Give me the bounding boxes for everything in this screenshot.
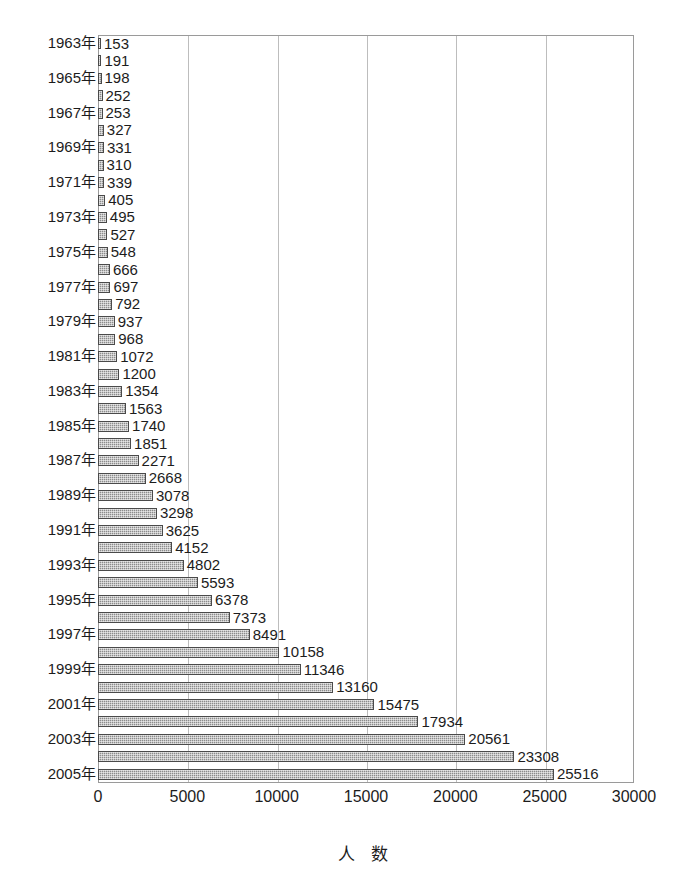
bar-row: 2005年25516	[98, 766, 634, 783]
bar	[98, 55, 101, 66]
bar-value-label: 3078	[156, 487, 189, 504]
bar	[98, 195, 105, 206]
year-axis-label: 1997年	[48, 625, 96, 642]
bar-row: 1979年937	[98, 313, 634, 330]
bar	[98, 264, 110, 275]
bar-value-label: 548	[111, 243, 136, 260]
bar-value-label: 15475	[377, 696, 419, 713]
bar	[98, 490, 153, 501]
year-axis-label: 1991年	[48, 521, 96, 538]
bar-row: 310	[98, 157, 634, 174]
bar-row: 252	[98, 87, 634, 104]
year-axis-label: 1985年	[48, 417, 96, 434]
bar	[98, 438, 131, 449]
bar	[98, 369, 119, 380]
year-axis-label: 1993年	[48, 556, 96, 573]
bar-value-label: 1200	[122, 365, 155, 382]
x-tick-label: 10000	[254, 787, 299, 807]
bar-value-label: 23308	[517, 748, 559, 765]
bar-value-label: 331	[107, 139, 132, 156]
x-axis-ticks: 050001000015000200002500030000	[98, 787, 634, 811]
bar	[98, 299, 112, 310]
year-axis-label: 2001年	[48, 695, 96, 712]
bar-row: 1965年198	[98, 70, 634, 87]
year-axis-label: 1979年	[48, 312, 96, 329]
x-axis-title: 人 数	[98, 840, 634, 865]
bar	[98, 769, 554, 780]
bar-row: 405	[98, 192, 634, 209]
bar	[98, 73, 102, 84]
bar-value-label: 1851	[134, 435, 167, 452]
year-axis-label: 1965年	[48, 69, 96, 86]
bar-value-label: 2271	[142, 452, 175, 469]
bar-row: 527	[98, 226, 634, 243]
bar-chart: 1963年1531911965年1982521967年2533271969年33…	[0, 0, 692, 894]
bar-value-label: 20561	[468, 730, 510, 747]
bar	[98, 542, 172, 553]
bar-value-label: 937	[118, 313, 143, 330]
bar-row: 1997年8491	[98, 626, 634, 643]
bar	[98, 108, 103, 119]
bar-value-label: 527	[110, 226, 135, 243]
bar-value-label: 191	[104, 52, 129, 69]
bar-rows: 1963年1531911965年1982521967年2533271969年33…	[98, 35, 634, 783]
bar-value-label: 13160	[336, 678, 378, 695]
bar-value-label: 792	[115, 295, 140, 312]
bar-row: 1995年6378	[98, 592, 634, 609]
bar	[98, 508, 157, 519]
bar-value-label: 666	[113, 261, 138, 278]
bar-row: 3298	[98, 505, 634, 522]
bar	[98, 716, 418, 727]
bar-value-label: 1563	[129, 400, 162, 417]
bar-value-label: 25516	[557, 765, 599, 782]
bar	[98, 647, 279, 658]
bar-value-label: 3298	[160, 504, 193, 521]
bar-row: 191	[98, 52, 634, 69]
bar-row: 1999年11346	[98, 661, 634, 678]
bar-row: 23308	[98, 748, 634, 765]
year-axis-label: 1995年	[48, 591, 96, 608]
bar	[98, 38, 101, 49]
year-axis-label: 1963年	[48, 34, 96, 51]
bar-value-label: 2668	[149, 469, 182, 486]
bar	[98, 734, 465, 745]
bar	[98, 334, 115, 345]
bar	[98, 560, 184, 571]
x-tick-label: 5000	[170, 787, 206, 807]
bar	[98, 351, 117, 362]
year-axis-label: 1967年	[48, 104, 96, 121]
bar	[98, 142, 104, 153]
bar-value-label: 11346	[304, 661, 345, 678]
bar-value-label: 405	[108, 191, 133, 208]
bar-row: 1971年339	[98, 174, 634, 191]
bar-value-label: 3625	[166, 522, 199, 539]
bar-row: 1967年253	[98, 105, 634, 122]
bar	[98, 212, 107, 223]
bar-value-label: 4152	[175, 539, 208, 556]
bar	[98, 247, 108, 258]
bar-value-label: 198	[105, 69, 130, 86]
bar-row: 327	[98, 122, 634, 139]
bar-row: 2001年15475	[98, 696, 634, 713]
bar-value-label: 4802	[187, 556, 220, 573]
bar	[98, 125, 104, 136]
bar-row: 2668	[98, 470, 634, 487]
bar-row: 1563	[98, 400, 634, 417]
bar	[98, 682, 333, 693]
bar	[98, 421, 129, 432]
bar-row: 1969年331	[98, 139, 634, 156]
bar	[98, 386, 122, 397]
bar	[98, 473, 146, 484]
year-axis-label: 2005年	[48, 765, 96, 782]
year-axis-label: 1971年	[48, 173, 96, 190]
year-axis-label: 1983年	[48, 382, 96, 399]
bar-row: 1985年1740	[98, 418, 634, 435]
bar-value-label: 5593	[201, 574, 234, 591]
year-axis-label: 1977年	[48, 278, 96, 295]
bar-value-label: 310	[107, 156, 132, 173]
bar	[98, 751, 514, 762]
bar	[98, 282, 110, 293]
x-tick-label: 30000	[612, 787, 657, 807]
bar-row: 2003年20561	[98, 731, 634, 748]
bar	[98, 664, 301, 675]
